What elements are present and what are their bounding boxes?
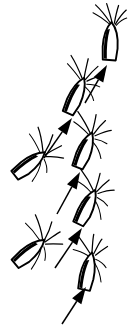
seed-2 xyxy=(49,52,108,121)
arrow-4 xyxy=(55,228,82,268)
seed-7 xyxy=(0,210,68,277)
arrow-2 xyxy=(44,118,72,158)
figure-container: Seed diaspore self-righting sequence Lin… xyxy=(0,0,128,332)
seed-1 xyxy=(90,3,128,61)
seed-7-body xyxy=(11,234,49,269)
seed-4 xyxy=(59,165,119,232)
seed-6 xyxy=(0,123,69,189)
seed-6-body xyxy=(11,147,50,181)
arrow-5 xyxy=(62,287,86,324)
arrow-3 xyxy=(57,172,80,214)
seed-sequence-drawing xyxy=(0,0,128,332)
seed-3 xyxy=(58,108,115,175)
